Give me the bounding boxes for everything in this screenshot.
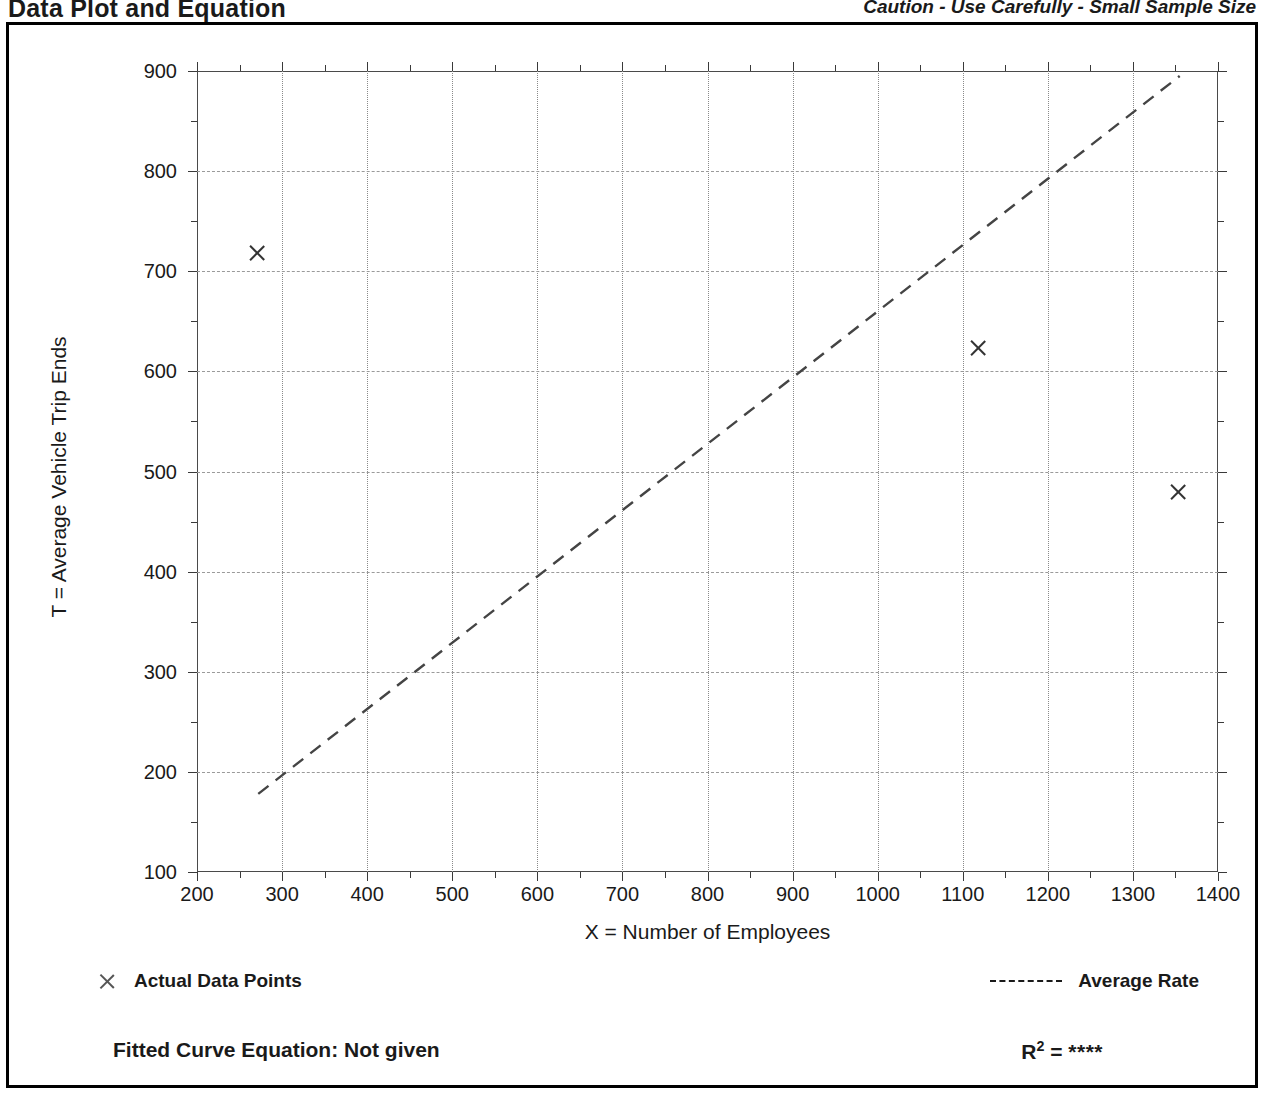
tick-x-1200 — [1048, 872, 1049, 881]
tick-x-1000 — [878, 872, 879, 881]
tick-x-900 — [793, 872, 794, 881]
tick-y-900 — [1218, 71, 1227, 72]
tick-y-300 — [188, 672, 197, 673]
average-rate-line — [197, 71, 1218, 872]
chart-legend: Actual Data Points Average Rate — [9, 970, 1261, 1030]
tick-y-500 — [1218, 472, 1227, 473]
y-tick-label-100: 100 — [144, 861, 177, 884]
tick-x-minor-1050 — [920, 872, 921, 878]
chart-footer: Fitted Curve Equation: Not given R2 = **… — [9, 1030, 1261, 1086]
page-title: Data Plot and Equation — [8, 0, 286, 23]
tick-y-400 — [188, 572, 197, 573]
tick-y-200 — [1218, 772, 1227, 773]
tick-x-minor-850 — [750, 872, 751, 878]
x-tick-label-900: 900 — [776, 883, 809, 906]
tick-x-1000 — [878, 62, 879, 71]
tick-x-minor-550 — [495, 872, 496, 878]
tick-y-800 — [188, 171, 197, 172]
tick-x-1300 — [1133, 872, 1134, 881]
chart-frame: T = Average Vehicle Trip Ends X = Number… — [6, 22, 1258, 1088]
tick-y-minor-850 — [1218, 121, 1224, 122]
tick-x-minor-950 — [835, 872, 836, 878]
fitted-curve-equation: Fitted Curve Equation: Not given — [113, 1038, 440, 1062]
x-tick-label-1200: 1200 — [1026, 883, 1071, 906]
tick-x-1100 — [963, 872, 964, 881]
tick-y-minor-550 — [1218, 421, 1224, 422]
x-tick-label-400: 400 — [350, 883, 383, 906]
x-tick-label-300: 300 — [265, 883, 298, 906]
tick-y-600 — [1218, 371, 1227, 372]
tick-x-300 — [282, 872, 283, 881]
tick-y-100 — [1218, 872, 1227, 873]
tick-x-400 — [367, 872, 368, 881]
x-tick-label-200: 200 — [180, 883, 213, 906]
tick-y-900 — [188, 71, 197, 72]
tick-x-1200 — [1048, 62, 1049, 71]
tick-y-minor-650 — [1218, 321, 1224, 322]
tick-x-700 — [622, 872, 623, 881]
tick-x-1400 — [1218, 62, 1219, 71]
tick-x-minor-1350 — [1175, 872, 1176, 878]
plot-area: 2003004005006007008009001000110012001300… — [197, 71, 1218, 872]
page-header: Data Plot and Equation Caution - Use Car… — [0, 0, 1270, 22]
x-tick-label-600: 600 — [521, 883, 554, 906]
tick-x-minor-250 — [240, 872, 241, 878]
legend-entry-average-rate: Average Rate — [990, 970, 1199, 992]
tick-x-minor-450 — [410, 872, 411, 878]
tick-y-500 — [188, 472, 197, 473]
tick-y-minor-750 — [1218, 221, 1224, 222]
tick-x-600 — [537, 62, 538, 71]
tick-x-200 — [197, 62, 198, 71]
tick-y-700 — [188, 271, 197, 272]
tick-x-800 — [708, 62, 709, 71]
tick-x-minor-1250 — [1090, 872, 1091, 878]
x-marker-icon — [97, 972, 116, 991]
r-squared-symbol: R — [1021, 1040, 1036, 1063]
y-tick-label-300: 300 — [144, 660, 177, 683]
legend-entry-data-points: Actual Data Points — [97, 970, 302, 992]
tick-x-600 — [537, 872, 538, 881]
y-tick-label-500: 500 — [144, 460, 177, 483]
y-tick-label-600: 600 — [144, 360, 177, 383]
x-tick-label-500: 500 — [436, 883, 469, 906]
tick-x-300 — [282, 62, 283, 71]
tick-y-600 — [188, 371, 197, 372]
y-tick-label-900: 900 — [144, 60, 177, 83]
legend-label-average-rate: Average Rate — [1078, 970, 1199, 992]
dashed-line-icon — [990, 980, 1062, 982]
y-tick-label-700: 700 — [144, 260, 177, 283]
tick-y-100 — [188, 872, 197, 873]
tick-x-800 — [708, 872, 709, 881]
tick-x-minor-1150 — [1005, 872, 1006, 878]
tick-y-minor-150 — [1218, 822, 1224, 823]
tick-y-400 — [1218, 572, 1227, 573]
tick-x-1300 — [1133, 62, 1134, 71]
r-squared-stars: **** — [1068, 1040, 1103, 1063]
tick-x-400 — [367, 62, 368, 71]
tick-x-900 — [793, 62, 794, 71]
y-tick-label-200: 200 — [144, 760, 177, 783]
y-tick-label-800: 800 — [144, 160, 177, 183]
x-tick-label-700: 700 — [606, 883, 639, 906]
r-squared-value: R2 = **** — [1021, 1038, 1103, 1064]
tick-y-300 — [1218, 672, 1227, 673]
tick-y-minor-250 — [1218, 722, 1224, 723]
x-tick-label-1000: 1000 — [855, 883, 900, 906]
tick-y-minor-350 — [1218, 622, 1224, 623]
x-tick-label-1400: 1400 — [1196, 883, 1241, 906]
caution-note: Caution - Use Carefully - Small Sample S… — [863, 0, 1256, 18]
r-squared-equals: = — [1044, 1040, 1068, 1063]
tick-y-200 — [188, 772, 197, 773]
tick-x-minor-650 — [580, 872, 581, 878]
tick-x-1400 — [1218, 872, 1219, 881]
tick-y-800 — [1218, 171, 1227, 172]
x-axis-title: X = Number of Employees — [197, 920, 1218, 944]
tick-x-200 — [197, 872, 198, 881]
tick-x-minor-750 — [665, 872, 666, 878]
legend-label-data-points: Actual Data Points — [134, 970, 302, 992]
tick-x-500 — [452, 872, 453, 881]
tick-y-minor-450 — [1218, 522, 1224, 523]
tick-y-700 — [1218, 271, 1227, 272]
x-tick-label-1100: 1100 — [941, 883, 984, 906]
tick-x-1100 — [963, 62, 964, 71]
